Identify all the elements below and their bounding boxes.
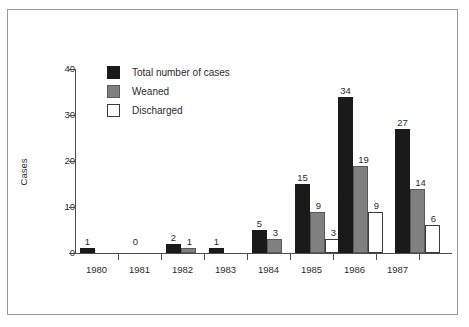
x-tick-mark-7 — [376, 254, 377, 260]
bar-label-1980-total: 1 — [75, 236, 100, 247]
x-tick-label-1980: 1980 — [75, 264, 118, 276]
bar-1986-discharged — [368, 212, 383, 253]
plot-area: Cases 40 30 20 10 0 1980 — [0, 0, 469, 327]
legend-swatch-weaned-icon — [107, 85, 120, 98]
x-axis-line — [75, 253, 452, 254]
bar-label-1983-total: 1 — [204, 236, 229, 247]
bar-label-1987-discharged: 6 — [421, 213, 446, 224]
y-tick-mark-0 — [69, 253, 75, 254]
y-tick-mark-30 — [69, 115, 75, 116]
bar-label-1985-total: 15 — [290, 172, 315, 183]
y-tick-mark-20 — [69, 161, 75, 162]
x-tick-mark-4 — [247, 254, 248, 260]
bar-label-1987-total: 27 — [390, 117, 415, 128]
y-tick-group-10: 10 — [0, 202, 75, 212]
y-tick-group-20: 20 — [0, 156, 75, 166]
y-tick-mark-40 — [69, 69, 75, 70]
bar-1985-total — [295, 184, 310, 253]
bar-label-1982-weaned: 1 — [177, 236, 202, 247]
x-tick-mark-2 — [161, 254, 162, 260]
legend-item-weaned: Weaned — [107, 82, 230, 101]
x-tick-mark-8 — [419, 254, 420, 260]
x-tick-label-1982: 1982 — [161, 264, 204, 276]
legend-item-total: Total number of cases — [107, 63, 230, 82]
x-tick-label-1984: 1984 — [247, 264, 290, 276]
bar-label-1984-weaned: 3 — [263, 227, 288, 238]
x-tick-mark-1 — [118, 254, 119, 260]
y-tick-mark-10 — [69, 207, 75, 208]
x-tick-label-1986: 1986 — [333, 264, 376, 276]
y-tick-group-0: 0 — [0, 248, 75, 258]
legend-swatch-discharged-icon — [107, 104, 120, 117]
bar-1986-total — [338, 97, 353, 253]
bar-label-1981-total: 0 — [123, 236, 148, 247]
chart-page: Cases 40 30 20 10 0 1980 — [0, 0, 469, 327]
y-tick-group-40: 40 — [0, 64, 75, 74]
x-tick-mark-6 — [333, 254, 334, 260]
x-tick-label-1987: 1987 — [376, 264, 419, 276]
bar-label-1987-weaned: 14 — [408, 177, 433, 188]
bar-1987-discharged — [425, 225, 440, 253]
bar-1982-weaned — [181, 248, 196, 253]
bar-1984-weaned — [267, 239, 282, 253]
x-tick-label-1985: 1985 — [290, 264, 333, 276]
legend-label-weaned: Weaned — [132, 86, 169, 98]
legend-label-discharged: Discharged — [132, 105, 183, 117]
bar-1983-total — [209, 248, 224, 253]
legend-swatch-total-icon — [107, 66, 120, 79]
x-tick-label-1981: 1981 — [118, 264, 161, 276]
x-tick-mark-3 — [204, 254, 205, 260]
bar-label-1985-weaned: 9 — [306, 200, 331, 211]
y-axis-line — [75, 69, 76, 254]
y-axis-title: Cases — [18, 142, 30, 202]
bar-label-1986-weaned: 19 — [351, 154, 376, 165]
x-tick-mark-5 — [290, 254, 291, 260]
chart-legend: Total number of cases Weaned Discharged — [107, 63, 230, 120]
x-tick-label-1983: 1983 — [204, 264, 247, 276]
y-tick-group-30: 30 — [0, 110, 75, 120]
bar-label-1986-total: 34 — [333, 85, 358, 96]
legend-item-discharged: Discharged — [107, 101, 230, 120]
bar-1987-total — [395, 129, 410, 253]
bar-label-1986-discharged: 9 — [364, 200, 389, 211]
bar-1980-total — [80, 248, 95, 253]
legend-label-total: Total number of cases — [132, 67, 230, 79]
